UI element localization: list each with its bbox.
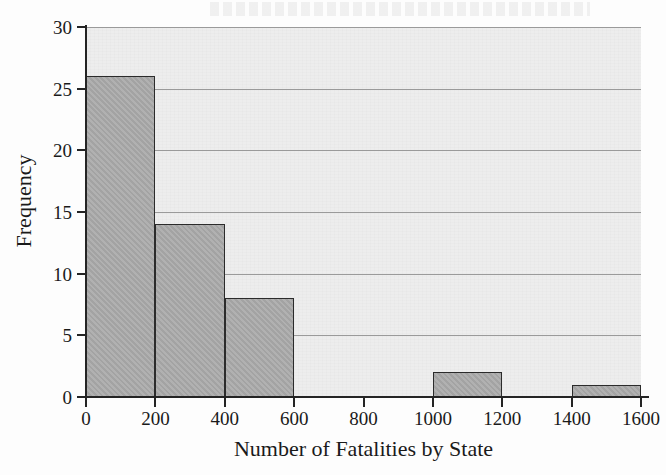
x-axis-tick-label: 800 — [324, 409, 404, 428]
histogram-bar — [155, 224, 224, 397]
x-axis-tick-label: 400 — [185, 409, 265, 428]
bar-texture — [434, 373, 501, 396]
x-axis-tick-label: 1200 — [462, 409, 542, 428]
x-axis-tick — [85, 398, 87, 407]
bar-texture — [87, 77, 154, 396]
y-axis-tick — [77, 26, 86, 28]
x-axis-line — [85, 396, 649, 398]
y-axis-tick — [77, 149, 86, 151]
y-axis-tick — [77, 88, 86, 90]
bar-texture — [156, 225, 223, 396]
x-axis-tick-label: 200 — [115, 409, 195, 428]
y-axis-tick-label: 5 — [0, 326, 72, 345]
x-axis-tick-label: 0 — [46, 409, 126, 428]
y-axis-title: Frequency — [13, 111, 35, 291]
x-axis-tick-label: 1400 — [532, 409, 612, 428]
scan-bleedthrough-artifact — [210, 2, 590, 16]
x-axis-tick — [432, 398, 434, 407]
x-axis-tick — [640, 398, 642, 407]
x-axis-tick — [154, 398, 156, 407]
bar-texture — [573, 386, 640, 396]
x-axis-tick-label: 600 — [254, 409, 334, 428]
y-axis-tick — [77, 273, 86, 275]
x-axis-title: Number of Fatalities by State — [86, 438, 641, 460]
bar-texture — [226, 299, 293, 396]
gridline — [86, 89, 641, 90]
gridline — [86, 150, 641, 151]
gridline — [86, 212, 641, 213]
x-axis-tick — [571, 398, 573, 407]
histogram-bar — [433, 372, 502, 397]
y-axis-tick-label: 0 — [0, 388, 72, 407]
y-axis-tick-label: 10 — [0, 265, 72, 284]
x-axis-tick — [293, 398, 295, 407]
x-axis-tick — [224, 398, 226, 407]
y-axis-tick-label: 25 — [0, 80, 72, 99]
y-axis-tick — [77, 211, 86, 213]
x-axis-tick — [363, 398, 365, 407]
gridline — [86, 27, 641, 28]
x-axis-tick-label: 1600 — [601, 409, 666, 428]
histogram-bar — [225, 298, 294, 397]
y-axis-tick-label: 30 — [0, 18, 72, 37]
x-axis-tick — [501, 398, 503, 407]
histogram-bar — [86, 76, 155, 397]
histogram-figure: 051015202530 020040060080010001200140016… — [0, 0, 666, 475]
x-axis-tick-label: 1000 — [393, 409, 473, 428]
plot-area — [86, 27, 641, 397]
y-axis-tick — [77, 334, 86, 336]
